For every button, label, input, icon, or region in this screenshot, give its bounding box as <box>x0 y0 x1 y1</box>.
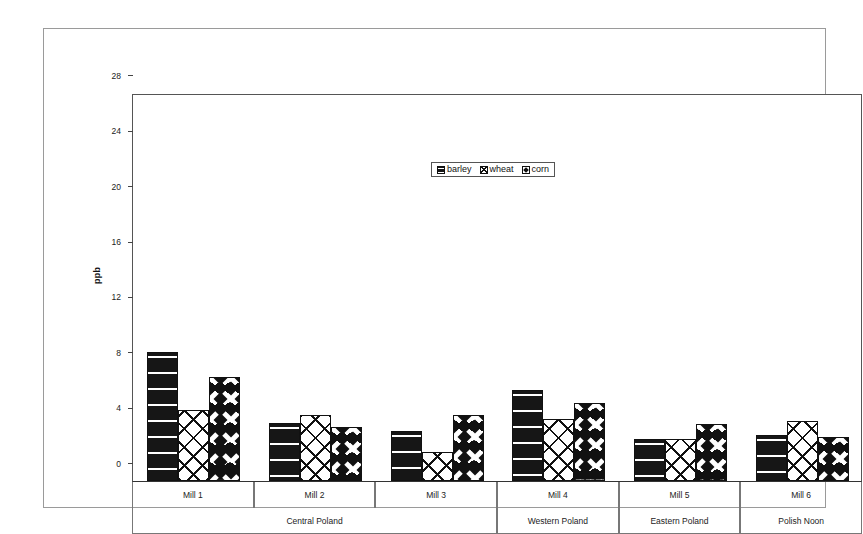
x-axis-category-label: Mill 3 <box>375 482 497 508</box>
legend-label: wheat <box>490 165 514 174</box>
diamond-pattern <box>575 404 604 480</box>
y-axis-tick: 24 <box>112 121 133 139</box>
x-axis-category-bands: Mill 1Mill 2Mill 3Mill 4Mill 5Mill 6Cent… <box>132 482 862 534</box>
plot-area: 0481216202428 <box>132 94 862 482</box>
figure-frame: ppb 0481216202428 barleywheatcorn Mill 1… <box>43 28 826 508</box>
legend-entry-wheat: wheat <box>480 165 514 174</box>
bar-group-bars <box>376 95 498 481</box>
legend-entry-corn: corn <box>522 165 550 174</box>
y-axis-tick-label: 8 <box>116 348 121 358</box>
diamond-pattern <box>819 438 848 480</box>
legend-entry-barley: barley <box>437 165 472 174</box>
y-axis-tick: 16 <box>112 232 133 250</box>
legend-label: corn <box>532 165 550 174</box>
legend-swatch-corn-icon <box>522 166 530 174</box>
bar-wheat <box>422 452 453 481</box>
bars-layer <box>133 95 861 481</box>
bar-corn <box>696 424 727 481</box>
bar-wheat <box>787 421 818 481</box>
y-axis-tick-label: 4 <box>116 403 121 413</box>
bar-wheat <box>665 439 696 481</box>
bar-barley <box>269 423 300 481</box>
bar-wheat <box>543 419 574 481</box>
bar-corn <box>818 437 849 481</box>
y-axis-tick-label: 24 <box>112 126 121 136</box>
y-axis-tick: 20 <box>112 177 133 195</box>
diamond-pattern <box>697 425 726 480</box>
y-axis-tick-label: 20 <box>112 182 121 192</box>
chart-legend: barleywheatcorn <box>431 162 555 177</box>
x-axis-region-label: Central Poland <box>132 508 497 534</box>
diamond-pattern <box>210 378 239 480</box>
bar-group <box>741 95 863 481</box>
legend-swatch-wheat-icon <box>480 166 488 174</box>
bar-group <box>133 95 255 481</box>
bar-barley <box>391 431 422 481</box>
bar-barley <box>756 435 787 481</box>
y-axis-tick-mark <box>128 75 133 76</box>
y-axis-tick: 8 <box>116 343 133 361</box>
y-axis-tick: 4 <box>116 399 133 417</box>
bar-barley <box>147 352 178 481</box>
legend-label: barley <box>447 165 472 174</box>
diamond-pattern <box>332 428 361 480</box>
y-axis-tick: 12 <box>112 288 133 306</box>
bar-group <box>255 95 377 481</box>
y-axis-tick-label: 16 <box>112 237 121 247</box>
bar-barley <box>634 439 665 481</box>
bar-corn <box>331 427 362 481</box>
bar-corn <box>574 403 605 481</box>
bar-group <box>498 95 620 481</box>
bar-group <box>620 95 742 481</box>
bar-group-bars <box>255 95 377 481</box>
bar-group-bars <box>620 95 742 481</box>
bar-group-bars <box>741 95 863 481</box>
x-axis-category-label: Mill 2 <box>254 482 376 508</box>
bar-group-bars <box>133 95 255 481</box>
x-axis-region-label: Polish Noon <box>740 508 862 534</box>
y-axis-tick: 28 <box>112 66 133 84</box>
bar-corn <box>453 415 484 482</box>
y-axis-tick-label: 0 <box>116 459 121 469</box>
x-axis-category-label: Mill 1 <box>132 482 254 508</box>
y-axis-tick: 0 <box>116 454 133 472</box>
x-axis-category-label: Mill 5 <box>619 482 741 508</box>
bar-wheat <box>178 410 209 481</box>
diamond-pattern <box>454 416 483 481</box>
y-axis-title: ppb <box>92 267 102 284</box>
x-axis-region-label: Western Poland <box>497 508 619 534</box>
bar-group <box>376 95 498 481</box>
bar-group-bars <box>498 95 620 481</box>
bar-corn <box>209 377 240 481</box>
legend-swatch-barley-icon <box>437 166 445 174</box>
y-axis-tick-label: 28 <box>112 71 121 81</box>
bar-barley <box>512 390 543 481</box>
bar-wheat <box>300 415 331 482</box>
x-axis-category-label: Mill 4 <box>497 482 619 508</box>
x-axis-category-label: Mill 6 <box>740 482 862 508</box>
y-axis-tick-label: 12 <box>112 292 121 302</box>
x-axis-region-label: Eastern Poland <box>619 508 741 534</box>
